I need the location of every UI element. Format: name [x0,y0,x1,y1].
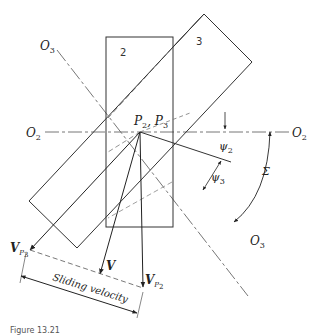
sigma-label: Σ [261,165,270,178]
o3-bottom-label: O3 [250,234,265,250]
o3-top-label: O3 [40,39,55,55]
figure-caption: Figure 13.21 [10,326,60,335]
psi2-label: ψ2 [219,140,233,155]
gear3-label: 3 [196,36,202,47]
vp2-label: VP2 [145,273,164,291]
extension-right [137,292,143,318]
v-label: V [106,259,117,273]
pitch-point-label: P2, P3 [133,114,168,130]
diagram-canvas: 2 3 O3 O2 O2 O3 P2, P3 ψ2 ψ3 Σ VP3 V VP2… [0,0,319,335]
gear-diagram: 2 3 O3 O2 O2 O3 P2, P3 ψ2 ψ3 Σ VP3 V VP2… [0,0,319,335]
o2-right-label: O2 [292,126,307,142]
o2-left-label: O2 [26,126,41,142]
sliding-velocity-label: Sliding velocity [51,271,129,304]
vp3-label: VP3 [10,241,29,259]
gear2-label: 2 [120,47,126,58]
psi3-label: ψ3 [211,171,225,186]
